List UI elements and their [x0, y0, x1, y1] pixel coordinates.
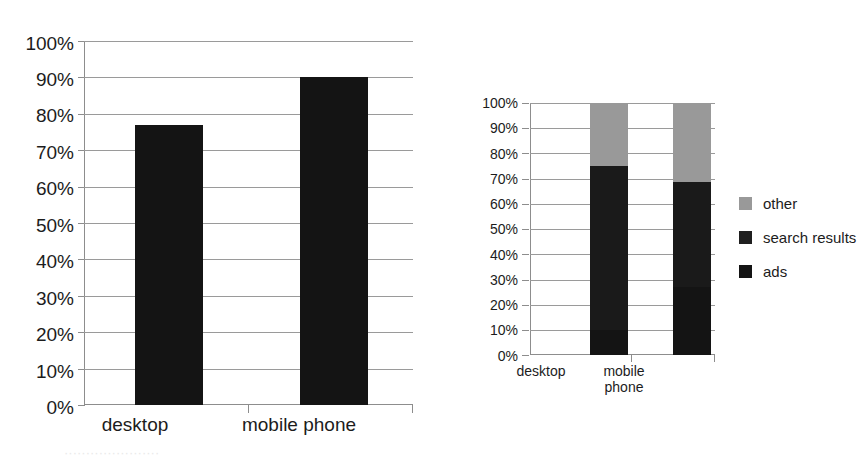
y-axis-tick-mark [522, 128, 529, 129]
plot-area [530, 103, 715, 355]
y-axis-tick-mark [522, 103, 529, 104]
legend-label: ads [763, 263, 787, 280]
gridline [84, 41, 413, 42]
y-axis-tick-label: 100% [450, 96, 518, 110]
y-axis-tick-label: 70% [8, 143, 74, 162]
y-axis-tick-mark [522, 280, 529, 281]
bar-mobile-phone[interactable] [300, 77, 368, 405]
x-axis-label-desktop: desktop [501, 364, 581, 380]
y-axis-tick-label: 90% [8, 70, 74, 89]
y-axis-tick-mark [522, 254, 529, 255]
y-axis-tick-mark [522, 355, 529, 356]
segment-ads[interactable] [673, 287, 711, 355]
y-axis-tick-mark [522, 229, 529, 230]
plot-area [84, 41, 413, 405]
y-axis-tick-label: 90% [450, 121, 518, 135]
y-axis-tick-label: 30% [450, 273, 518, 287]
y-axis-tick-label: 10% [450, 323, 518, 337]
y-axis-tick-label: 100% [8, 34, 74, 53]
legend-swatch-icon [739, 231, 752, 244]
y-axis-tick-label: 40% [8, 252, 74, 271]
y-axis-tick-label: 20% [8, 325, 74, 344]
segment-search-results[interactable] [590, 166, 628, 330]
legend-swatch-icon [739, 197, 752, 210]
x-axis-tick-mark [631, 354, 632, 362]
legend: other search results ads [739, 186, 856, 288]
x-axis-tick-mark [248, 404, 249, 413]
legend-item-ads[interactable]: ads [739, 254, 856, 288]
x-axis-tick-mark [412, 404, 413, 413]
legend-swatch-icon [739, 265, 752, 278]
y-axis-tick-mark [522, 305, 529, 306]
y-axis-tick-label: 0% [450, 349, 518, 363]
y-axis-tick-label: 80% [450, 147, 518, 161]
legend-label: search results [763, 229, 856, 246]
stacked-bar-desktop[interactable] [590, 103, 628, 355]
segment-other[interactable] [673, 103, 711, 182]
x-axis-label-mobile-phone: mobile phone [216, 414, 382, 435]
y-axis-tick-label: 60% [8, 179, 74, 198]
x-axis-label-desktop: desktop [52, 414, 218, 435]
y-axis-tick-label: 80% [8, 106, 74, 125]
y-axis-tick-label: 20% [450, 298, 518, 312]
y-axis-tick-label: 50% [450, 222, 518, 236]
stacked-bar-mobile-phone[interactable] [673, 103, 711, 355]
figure-root: 100% 90% 80% 70% 60% 50% 40% 30% 20% 10%… [0, 0, 866, 460]
segment-other[interactable] [590, 103, 628, 166]
segment-search-results[interactable] [673, 182, 711, 287]
y-axis-tick-label: 10% [8, 362, 74, 381]
cut-off-caption: ······················ [64, 449, 484, 458]
y-axis-tick-label: 30% [8, 289, 74, 308]
y-axis-tick-mark [522, 179, 529, 180]
segment-ads[interactable] [590, 330, 628, 355]
y-axis-tick-mark [78, 405, 85, 406]
legend-item-search-results[interactable]: search results [739, 220, 856, 254]
x-axis-tick-mark [714, 354, 715, 362]
legend-item-other[interactable]: other [739, 186, 856, 220]
y-axis-tick-label: 50% [8, 216, 74, 235]
bar-chart-left: 100% 90% 80% 70% 60% 50% 40% 30% 20% 10%… [0, 0, 440, 440]
stacked-bar-chart-right: 100% 90% 80% 70% 60% 50% 40% 30% 20% 10%… [440, 0, 866, 460]
y-axis-tick-label: 40% [450, 248, 518, 262]
y-axis-tick-mark [522, 153, 529, 154]
y-axis-tick-mark [522, 330, 529, 331]
legend-label: other [763, 195, 797, 212]
y-axis-tick-mark [522, 204, 529, 205]
y-axis-tick-label: 60% [450, 197, 518, 211]
x-axis-label-mobile-phone: mobile phone [584, 364, 664, 395]
y-axis-tick-label: 70% [450, 172, 518, 186]
bar-desktop[interactable] [135, 125, 203, 405]
